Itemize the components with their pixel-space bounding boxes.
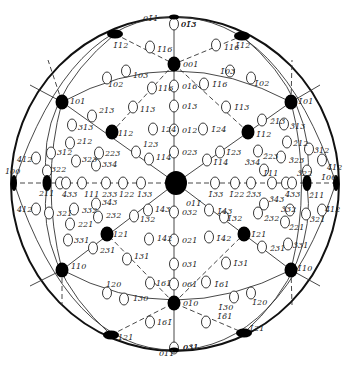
minor-pole — [78, 177, 87, 189]
pole-label: 013 — [182, 102, 197, 111]
pole-label: 2̄31 — [269, 244, 285, 253]
minor-pole — [119, 177, 128, 189]
projection-canvas: 01̄31̄161161031021̄031̄021161̄1601601311… — [0, 0, 348, 368]
pole-label: 1̄33 — [208, 190, 223, 199]
pole-label: 161̄ — [157, 318, 172, 327]
minor-pole — [254, 207, 263, 219]
major-pole — [169, 15, 179, 20]
major-pole-label: 100 — [5, 167, 20, 176]
major-pole-label: 1̄01 — [298, 97, 313, 106]
minor-pole — [72, 155, 81, 167]
pole-label: 161 — [156, 279, 171, 288]
minor-pole — [205, 204, 214, 216]
major-pole-label: 1̄21 — [251, 230, 266, 239]
minor-pole — [149, 123, 158, 135]
pole-label: 1̄42 — [216, 234, 231, 243]
pole-label: 2̄12 — [292, 139, 308, 148]
pole-label: 133 — [137, 190, 152, 199]
minor-pole — [47, 147, 56, 159]
pole-label: 343 — [102, 198, 117, 207]
pole-label: 4̄33 — [284, 190, 300, 199]
pole-label: 023 — [182, 148, 197, 157]
major-pole — [285, 95, 298, 110]
minor-pole — [66, 218, 75, 230]
minor-pole — [247, 177, 256, 189]
major-pole-label: 01̄1 — [143, 14, 158, 23]
pole-label: 1̄16 — [157, 45, 172, 54]
major-pole-label: 112 — [118, 129, 133, 138]
minor-pole — [199, 123, 208, 135]
minor-pole — [212, 39, 221, 51]
minor-pole — [170, 258, 179, 270]
pole-label: 111 — [84, 190, 99, 199]
minor-pole — [132, 146, 141, 158]
minor-pole — [68, 119, 77, 131]
major-pole — [107, 30, 123, 39]
stereographic-projection: 01̄31̄161161031021̄031̄021161̄1601601311… — [0, 0, 348, 368]
minor-pole — [205, 231, 214, 243]
pole-label: 3̄31 — [293, 241, 308, 250]
pole-label: 412 — [16, 205, 32, 214]
minor-pole — [145, 153, 154, 165]
pole-label: 016 — [182, 82, 197, 91]
pole-label: 103 — [133, 71, 148, 80]
pole-label: 433 — [61, 190, 77, 199]
pole-label: 4̄12 — [326, 163, 342, 172]
dashed-010-121 — [107, 234, 174, 303]
pole-label: 102 — [108, 80, 123, 89]
minor-pole — [102, 177, 111, 189]
minor-pole — [88, 110, 97, 122]
minor-pole — [62, 177, 71, 189]
pole-label: 231 — [99, 246, 115, 255]
pole-label: 142 — [157, 234, 172, 243]
minor-pole — [146, 316, 155, 328]
pole-label: 122 — [119, 190, 134, 199]
minor-pole — [137, 177, 146, 189]
pole-label: 212 — [76, 137, 92, 146]
minor-pole — [146, 277, 155, 289]
pole-label: 3̄43 — [269, 195, 284, 204]
major-pole — [11, 175, 17, 191]
minor-pole — [258, 241, 267, 253]
pole-label: 1̄14 — [213, 158, 228, 167]
pole-label: 1̄11 — [263, 169, 278, 178]
pole-label: 3̄32 — [281, 205, 296, 214]
minor-pole — [203, 154, 212, 166]
pole-label: 1̄6̄1 — [217, 312, 232, 321]
pole-label: 1̄32 — [227, 214, 242, 223]
pole-label: 1̄24 — [211, 125, 226, 134]
pole-label: 223 — [104, 149, 120, 158]
major-pole-label: 121 — [113, 230, 128, 239]
minor-pole — [202, 276, 211, 288]
major-pole — [285, 263, 298, 278]
minor-pole — [129, 101, 138, 113]
pole-label: 032 — [182, 208, 197, 217]
minor-pole — [32, 152, 41, 164]
major-pole-label: 1̄12 — [113, 41, 128, 50]
minor-pole — [268, 177, 277, 189]
pole-label: 120 — [106, 280, 121, 289]
pole-label: 124 — [161, 125, 176, 134]
minor-pole — [170, 206, 179, 218]
pole-label: 4̄12 — [324, 205, 340, 214]
minor-pole — [170, 100, 179, 112]
minor-pole — [230, 291, 239, 303]
major-pole-label: 1̄21 — [249, 324, 264, 333]
minor-pole — [231, 177, 240, 189]
pole-label: 1̄31 — [233, 259, 248, 268]
pole-label: 1̄23 — [226, 148, 241, 157]
major-pole-label: 101 — [70, 97, 85, 106]
minor-pole — [32, 203, 41, 215]
major-pole-label: 010 — [183, 299, 198, 308]
pole-label: 1̄20 — [252, 298, 267, 307]
pole-label: 113 — [140, 105, 155, 114]
major-pole-label: 001 — [183, 60, 198, 69]
minor-pole — [130, 210, 139, 222]
major-pole-label: 2̄11 — [308, 191, 324, 200]
minor-pole — [145, 233, 154, 245]
minor-pole — [45, 207, 54, 219]
major-pole-label: 211 — [38, 189, 54, 198]
major-pole — [56, 95, 69, 110]
major-pole-label: 1̄12 — [235, 41, 250, 50]
pole-label: 1̄30 — [218, 303, 233, 312]
